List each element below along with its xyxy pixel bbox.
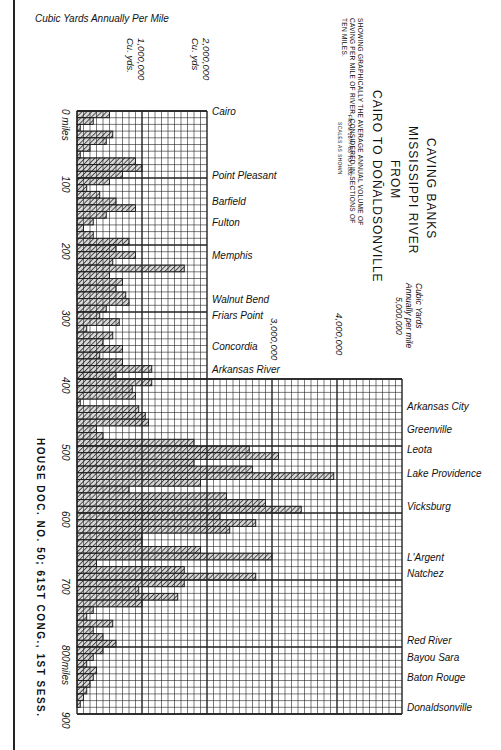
bar-section-320-330 [77, 325, 87, 332]
bar-section-220-230 [77, 258, 113, 265]
place-label: Fulton [212, 217, 240, 228]
bar-section-450-460 [77, 413, 145, 420]
bar-section-40-50 [77, 138, 106, 145]
bar-section-420-430 [77, 392, 136, 399]
place-label: Arkansas River [211, 364, 280, 375]
bar-section-570-580 [77, 493, 227, 500]
bar-section-470-480 [77, 426, 97, 433]
bar-section-870-880 [77, 694, 84, 701]
bar-section-750-760 [77, 614, 87, 621]
mile-label: 900 [60, 712, 71, 729]
bar-section-100-110 [77, 178, 110, 185]
place-label: Cairo [212, 106, 236, 117]
bar-section-720-730 [77, 593, 178, 600]
caving-bar-chart: 0 miles100200300400500600700800miles900 … [0, 0, 501, 750]
place-label: Concordia [212, 341, 258, 352]
bar-section-240-250 [77, 272, 110, 279]
mile-label: 400 [60, 377, 71, 394]
bar-section-530-540 [77, 466, 253, 473]
bar-section-550-560 [77, 480, 201, 487]
place-label: Natchez [407, 568, 444, 579]
bar-section-250-260 [77, 279, 123, 286]
place-label: Donaldsonville [407, 702, 472, 713]
bar-section-70-80 [77, 158, 136, 165]
bar-section-690-700 [77, 573, 256, 580]
bar-section-10-20 [77, 118, 93, 125]
place-label: Lake Providence [407, 468, 482, 479]
place-label: Leota [407, 444, 432, 455]
bar-section-180-190 [77, 232, 93, 239]
bar-section-810-820 [77, 654, 93, 661]
mile-label: 300 [60, 310, 71, 327]
place-label: Memphis [212, 250, 253, 261]
bar-section-170-180 [77, 225, 84, 232]
bar-section-540-550 [77, 473, 334, 480]
place-label: Walnut Bend [212, 294, 270, 305]
place-label: Baton Rouge [407, 672, 466, 683]
bar-section-270-280 [77, 292, 126, 299]
bar-section-440-450 [77, 406, 139, 413]
mile-label: 100 [60, 176, 71, 193]
bar-section-710-720 [77, 587, 139, 594]
bar-section-290-300 [77, 305, 106, 312]
bar-section-0-10 [77, 111, 110, 118]
bar-section-510-520 [77, 453, 279, 460]
place-label: Bayou Sara [407, 652, 460, 663]
bar-section-110-120 [77, 185, 87, 192]
bar-section-210-220 [77, 252, 136, 259]
bar-section-400-410 [77, 379, 152, 386]
bar-section-30-40 [77, 131, 113, 138]
mile-label: 500 [60, 444, 71, 461]
mile-label: 200 [60, 242, 71, 260]
place-labels: CairoPoint PleasantBarfieldFultonMemphis… [211, 106, 482, 713]
mile-label: 800miles [60, 645, 71, 685]
bar-section-760-770 [77, 620, 113, 627]
place-label: Red River [407, 635, 452, 646]
place-label: Friars Point [212, 310, 264, 321]
bar-section-830-840 [77, 667, 97, 674]
bar-section-370-380 [77, 359, 123, 366]
bar-section-90-100 [77, 171, 123, 178]
bar-section-380-390 [77, 366, 152, 373]
bar-section-650-660 [77, 547, 201, 554]
bar-section-610-620 [77, 520, 256, 527]
bar-section-350-360 [77, 346, 123, 353]
bar-section-860-870 [77, 687, 87, 694]
place-label: Point Pleasant [212, 170, 278, 181]
bar-section-460-470 [77, 419, 149, 426]
place-label: L'Argent [407, 552, 445, 563]
bar-section-840-850 [77, 674, 93, 681]
bar-section-670-680 [77, 560, 97, 567]
bar-section-590-600 [77, 506, 301, 513]
mile-label: 700 [60, 578, 71, 595]
bar-section-410-420 [77, 386, 132, 393]
place-label: Vicksburg [407, 501, 451, 512]
mile-label: 0 miles [60, 109, 71, 141]
bar-section-330-340 [77, 332, 113, 339]
bars-group [77, 111, 334, 707]
bar-section-740-750 [77, 607, 93, 614]
place-label: Greenville [407, 424, 452, 435]
place-label: Barfield [212, 196, 246, 207]
bar-section-580-590 [77, 500, 266, 507]
bar-section-160-170 [77, 218, 93, 225]
bar-section-140-150 [77, 205, 136, 212]
bar-section-820-830 [77, 660, 87, 667]
place-label: Arkansas City [406, 401, 470, 412]
mile-tick-labels: 0 miles100200300400500600700800miles900 [60, 109, 71, 729]
mile-label: 600 [60, 511, 71, 528]
bar-section-770-780 [77, 627, 93, 634]
bar-section-150-160 [77, 212, 106, 219]
